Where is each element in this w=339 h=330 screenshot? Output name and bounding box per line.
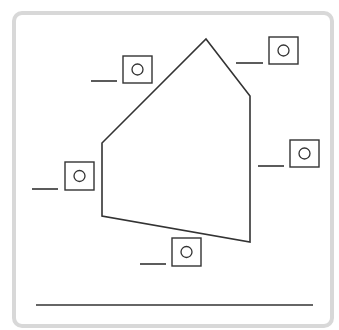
checkbox-square[interactable] — [65, 162, 94, 190]
circle-icon — [74, 171, 85, 182]
checkbox-square[interactable] — [123, 56, 152, 83]
label-slot[interactable] — [91, 56, 152, 83]
pentagon-shape — [102, 39, 250, 242]
circle-icon — [181, 247, 192, 258]
circle-icon — [278, 45, 289, 56]
label-slot[interactable] — [236, 37, 298, 64]
checkbox-square[interactable] — [269, 37, 298, 64]
checkbox-square[interactable] — [172, 238, 201, 266]
circle-icon — [299, 148, 310, 159]
circle-icon — [132, 64, 143, 75]
checkbox-square[interactable] — [290, 140, 319, 167]
label-slot[interactable] — [140, 238, 201, 266]
shape-diagram — [0, 0, 339, 330]
label-slot[interactable] — [258, 140, 319, 167]
label-slot[interactable] — [32, 162, 94, 190]
